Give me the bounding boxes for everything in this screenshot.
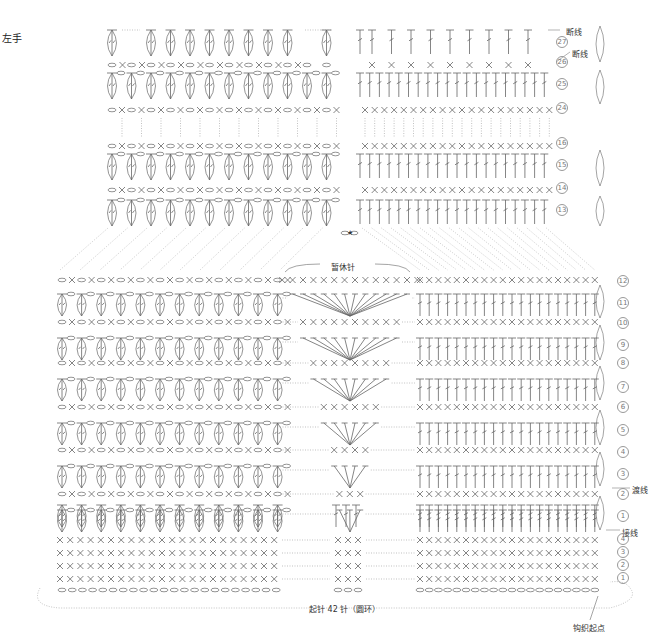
row-number-3: 3: [617, 468, 629, 480]
carry-yarn-label: 渡线: [632, 484, 648, 495]
cut-yarn-label-1: 断线: [566, 26, 582, 37]
row-number-5: 5: [617, 424, 629, 436]
row-number-24: 24: [556, 102, 568, 114]
base-row-number-3: 3: [617, 546, 629, 558]
foundation-label: 起针 42 针（圆环）: [309, 603, 380, 614]
row-number-2: 2: [617, 488, 629, 500]
row-number-13: 13: [556, 204, 568, 216]
base-row-number-1: 1: [617, 572, 629, 584]
hand-label: 左手: [2, 30, 22, 45]
base-row-number-4: 4: [617, 533, 629, 545]
row-number-26: 26: [556, 56, 568, 68]
start-point-label: 钩织起点: [573, 622, 605, 633]
crochet-chart: [0, 0, 662, 634]
row-number-10: 10: [617, 317, 629, 329]
row-number-6: 6: [617, 401, 629, 413]
row-number-8: 8: [617, 357, 629, 369]
row-number-16: 16: [556, 137, 568, 149]
row-number-4: 4: [617, 446, 629, 458]
row-number-15: 15: [556, 159, 568, 171]
row-number-14: 14: [556, 182, 568, 194]
row-number-25: 25: [556, 78, 568, 90]
row-number-7: 7: [617, 381, 629, 393]
row-number-27: 27: [556, 36, 568, 48]
row-number-12: 12: [617, 275, 629, 287]
row-number-1: 1: [617, 510, 629, 522]
row-number-9: 9: [617, 339, 629, 351]
pause-stitches-label: 暂休针: [331, 261, 355, 272]
base-row-number-2: 2: [617, 559, 629, 571]
row-number-11: 11: [617, 297, 629, 309]
star-icon: ★: [347, 229, 353, 237]
cut-yarn-label-2: 断线: [572, 48, 588, 59]
